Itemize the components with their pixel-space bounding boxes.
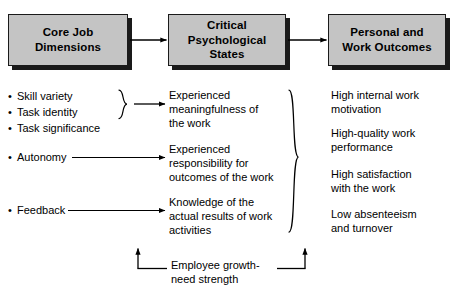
outcome-1: High internal work motivation	[331, 88, 449, 116]
box-critical-psychological-states-text: CriticalPsychologicalStates	[180, 18, 275, 63]
moderator-employee-growth-need-strength: Employee growth- need strength	[171, 258, 301, 286]
box-line-1: Critical	[184, 18, 271, 33]
critical-state-2: Experienced responsibility for outcomes …	[169, 142, 291, 185]
critical-state-1: Experienced meaningfulness of the work	[169, 88, 287, 131]
box-line-1: Core Job	[31, 25, 105, 40]
box-line-2: Psychological	[184, 33, 271, 48]
core-job-dimensions-group-1: Skill variety Task identity Task signifi…	[8, 89, 123, 137]
core-job-dimensions-group-3: Feedback	[8, 203, 123, 219]
box-core-job-dimensions-text: Core JobDimensions	[27, 25, 109, 55]
box-line-2: Work Outcomes	[338, 40, 435, 55]
box-personal-and-work-outcomes: Personal andWork Outcomes	[328, 14, 446, 66]
box-personal-and-work-outcomes-text: Personal andWork Outcomes	[334, 25, 439, 55]
list-item: Task significance	[8, 121, 123, 137]
box-core-job-dimensions: Core JobDimensions	[8, 14, 128, 66]
list-item: Autonomy	[8, 150, 123, 166]
list-item: Feedback	[8, 203, 123, 219]
outcome-3: High satisfaction with the work	[331, 167, 449, 195]
diagram-canvas: Core JobDimensions CriticalPsychological…	[0, 0, 453, 291]
list-item: Task identity	[8, 105, 123, 121]
core-job-dimensions-group-2: Autonomy	[8, 150, 123, 166]
outcome-2: High-quality work performance	[331, 126, 449, 154]
list-item: Skill variety	[8, 89, 123, 105]
box-critical-psychological-states: CriticalPsychologicalStates	[168, 14, 286, 66]
critical-state-3: Knowledge of the actual results of work …	[169, 195, 291, 238]
box-line-1: Personal and	[338, 25, 435, 40]
box-line-2: Dimensions	[31, 40, 105, 55]
box-line-3: States	[184, 47, 271, 62]
outcome-4: Low absenteeism and turnover	[331, 207, 449, 235]
